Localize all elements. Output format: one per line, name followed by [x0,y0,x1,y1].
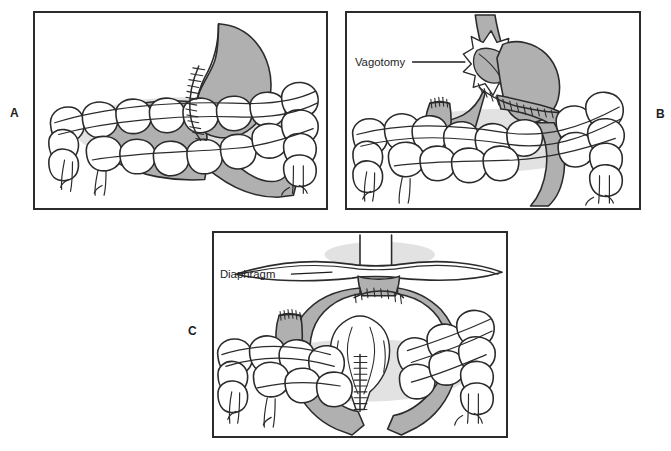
descending-colon-right [590,143,623,196]
panel-b: Vagotomy [345,11,641,210]
panel-a-drawing [35,13,326,208]
descending-colon-right [284,133,317,186]
panel-a [33,11,328,210]
panel-c: Diaphragm [212,231,508,438]
medical-illustration-figure: Vagotomy [0,0,671,451]
descending-colon-left [218,361,248,412]
vagotomy-label: Vagotomy [355,56,406,68]
panel-b-drawing: Vagotomy [347,13,639,208]
diaphragm-label: Diaphragm [220,268,275,280]
descending-colon-right [461,361,494,414]
descending-colon-left [353,141,383,192]
vagotomy-callout: Vagotomy [355,56,465,68]
descending-colon-left [49,130,79,181]
panel-letter-b: B [656,107,665,121]
panel-letter-a: A [10,106,19,120]
panel-c-drawing: Diaphragm [214,233,506,436]
panel-letter-c: C [188,324,197,338]
